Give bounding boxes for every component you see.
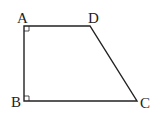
- right-angle-mark-b: [24, 96, 29, 101]
- vertex-label-c: C: [140, 95, 150, 111]
- trapezoid-diagram: A D B C: [0, 0, 159, 114]
- right-angle-mark-a: [24, 26, 29, 31]
- trapezoid-abcd: [24, 26, 137, 101]
- vertex-label-b: B: [11, 94, 21, 110]
- vertex-label-d: D: [88, 10, 99, 26]
- vertex-label-a: A: [17, 10, 28, 26]
